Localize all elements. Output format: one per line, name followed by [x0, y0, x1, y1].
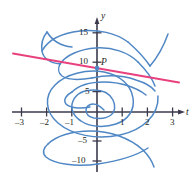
y-axis-group — [95, 17, 100, 172]
x-axis-group — [12, 110, 185, 115]
x-tick-label-2: 2 — [145, 118, 150, 127]
y-tick-label-10: 10 — [79, 57, 88, 66]
x-axis-arrowhead — [178, 110, 185, 115]
y-tick-label-neg5: –5 — [78, 136, 87, 145]
x-tick-label-1: 1 — [120, 118, 125, 127]
point-p-marker — [95, 66, 100, 71]
plot-canvas — [0, 0, 195, 176]
y-tick-label-neg10: –10 — [72, 156, 86, 165]
x-tick-label-neg3: –3 — [15, 118, 24, 127]
spiral-curve — [47, 71, 158, 137]
point-p-label: P — [101, 58, 107, 68]
x-axis-label: t — [186, 108, 189, 118]
x-tick-label-3: 3 — [170, 118, 175, 127]
x-tick-label-neg2: –2 — [40, 118, 49, 127]
y-tick-label-5: 5 — [85, 87, 90, 96]
math-graph-figure: y t 15 10 5 –5 –10 –3 –2 –1 1 2 3 P — [0, 0, 195, 176]
y-axis-label: y — [101, 12, 105, 22]
y-axis-arrowhead — [95, 17, 100, 24]
x-tick-label-neg1: –1 — [65, 118, 74, 127]
y-tick-label-15: 15 — [79, 28, 88, 37]
spiral-upper-left-sweep — [42, 30, 138, 64]
spiral-outer-upper-right-arc — [128, 34, 168, 86]
